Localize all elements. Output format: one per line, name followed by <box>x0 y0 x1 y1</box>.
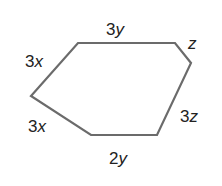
hexagon-shape <box>31 43 191 135</box>
side-label-top-left: 3x <box>25 52 43 71</box>
side-label-top: 3y <box>106 20 125 39</box>
side-label-right: 3z <box>180 107 198 126</box>
side-label-bottom: 2y <box>109 149 128 168</box>
side-label-top-right: z <box>187 34 197 53</box>
side-label-bottom-left: 3x <box>28 117 46 136</box>
hexagon-diagram: 3y z 3z 2y 3x 3x <box>0 0 222 186</box>
